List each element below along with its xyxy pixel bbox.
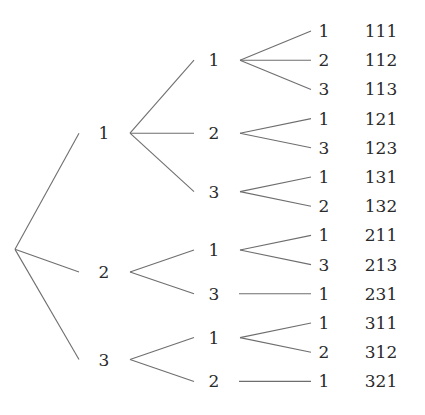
level3-node-label: 1 [319,109,330,129]
level2-node-label: 1 [209,50,220,70]
level1-edge [15,249,79,272]
outcome-label: 311 [365,313,397,333]
level1-node-label: 3 [99,350,110,370]
level3-edge [240,323,311,338]
level3-node-label: 1 [319,225,330,245]
level3-node-label: 3 [319,138,330,158]
level3-edge [240,192,311,207]
level3-node-label: 1 [319,371,330,391]
outcome-label: 113 [365,79,397,99]
level3-edge [240,31,311,60]
level2-edge [130,338,194,360]
level3-edge [240,177,311,192]
level3-node-label: 2 [319,50,330,70]
level2-edge [130,250,194,272]
level1-edge [15,133,79,249]
level2-edge [130,360,194,382]
level2-node-label: 2 [209,123,220,143]
level3-edge [240,133,311,148]
level3-node-label: 3 [319,79,330,99]
level2-node-label: 1 [209,328,220,348]
outcome-label: 231 [365,284,397,304]
outcome-label: 112 [365,50,397,70]
level3-node-label: 1 [319,167,330,187]
outcome-label: 131 [365,167,397,187]
level3-node-label: 2 [319,196,330,216]
level3-edge [240,338,311,353]
level2-node-label: 3 [209,284,220,304]
level2-edge [130,133,194,191]
outcome-label: 213 [365,255,397,275]
outcome-label: 121 [365,109,397,129]
level3-edge [240,235,311,250]
outcome-label: 111 [365,21,397,41]
level3-node-label: 1 [319,21,330,41]
level3-node-label: 2 [319,342,330,362]
level2-node-label: 1 [209,240,220,260]
level1-node-label: 2 [99,262,110,282]
outcome-label: 123 [365,138,397,158]
outcome-label: 132 [365,196,397,216]
level2-edge [130,272,194,294]
tree-diagram: 1111211231131112131232113121323112113213… [0,0,425,415]
level3-edge [240,119,311,134]
level3-node-label: 1 [319,313,330,333]
level3-edge [240,60,311,89]
level3-node-label: 3 [319,255,330,275]
level2-edge [130,60,194,133]
level2-node-label: 2 [209,371,220,391]
level3-edge [240,250,311,265]
outcome-label: 321 [365,371,397,391]
outcome-label: 211 [365,225,397,245]
level3-node-label: 1 [319,284,330,304]
level1-edge [15,249,79,359]
level2-node-label: 3 [209,182,220,202]
level1-node-label: 1 [99,123,110,143]
outcome-label: 312 [365,342,397,362]
